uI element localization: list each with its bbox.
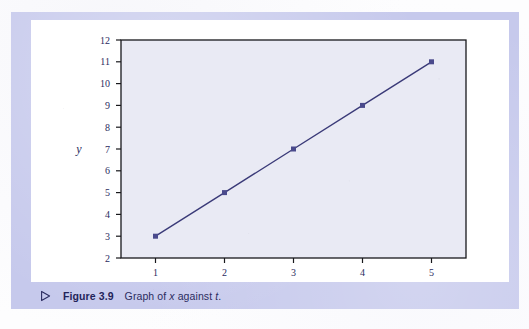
data-point-marker xyxy=(291,147,296,152)
y-tick-label: 12 xyxy=(100,35,110,46)
data-point-marker xyxy=(222,190,227,195)
x-tick-label: 5 xyxy=(429,267,434,278)
x-tick-label: 1 xyxy=(153,267,158,278)
figure-frame: 2345678910111212345yx Figure 3.9Graph of… xyxy=(11,12,519,309)
x-tick-label: 4 xyxy=(360,267,365,278)
y-tick-label: 6 xyxy=(105,165,110,176)
triangle-right-icon xyxy=(40,290,51,301)
y-tick-label: 8 xyxy=(105,122,110,133)
x-tick-label: 3 xyxy=(291,267,296,278)
figure-number-label: Figure 3.9 xyxy=(63,290,114,302)
caption-middle: against xyxy=(175,290,216,302)
figure-caption: Figure 3.9Graph of x against t. xyxy=(63,290,221,302)
y-tick-label: 3 xyxy=(105,231,110,242)
y-tick-label: 5 xyxy=(105,187,110,198)
x-tick-label: 2 xyxy=(222,267,227,278)
y-tick-label: 4 xyxy=(105,209,110,220)
caption-prefix: Graph of xyxy=(125,290,170,302)
data-point-marker xyxy=(153,234,158,239)
figure-caption-body: Graph of x against t. xyxy=(125,290,222,302)
y-tick-label: 7 xyxy=(105,144,110,155)
figure-caption-band: Figure 3.9Graph of x against t. xyxy=(11,282,519,309)
y-axis-label: y xyxy=(75,142,82,156)
y-tick-label: 11 xyxy=(100,56,110,67)
line-chart: 2345678910111212345yx xyxy=(31,20,509,282)
data-point-marker xyxy=(360,103,365,108)
plot-card: 2345678910111212345yx xyxy=(31,20,509,282)
caption-suffix: . xyxy=(218,290,221,302)
y-tick-label: 2 xyxy=(105,253,110,264)
y-tick-label: 9 xyxy=(105,100,110,111)
y-tick-label: 10 xyxy=(100,78,110,89)
data-point-marker xyxy=(429,59,434,64)
chart-area: 2345678910111212345yx xyxy=(31,20,509,282)
